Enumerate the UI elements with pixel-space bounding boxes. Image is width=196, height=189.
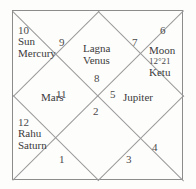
planet-jupiter: Jupiter [123, 91, 153, 103]
house-number-9: 9 [59, 37, 65, 48]
house-number-1: 1 [59, 154, 65, 165]
house-number-7: 7 [132, 37, 138, 48]
house-number-5: 5 [110, 89, 116, 100]
house-number-6: 6 [160, 25, 166, 36]
lagna-ascendant: Lagna [83, 42, 110, 54]
planet-moon: Moon [149, 44, 175, 56]
moon-degree: 12°21 [149, 56, 175, 66]
house-12-planets: Rahu Saturn [18, 127, 47, 152]
house-number-8: 8 [94, 73, 100, 84]
vedic-birth-chart: 10 9 7 6 8 11 5 2 12 1 3 4 Sun Mercury L… [0, 0, 196, 189]
planet-saturn: Saturn [18, 139, 47, 151]
house-11-planets: Mars [41, 91, 64, 103]
house-6-planets: Moon 12°21 Ketu [149, 44, 175, 79]
house-number-4: 4 [152, 142, 158, 153]
planet-rahu: Rahu [18, 127, 47, 139]
house-5-planets: Jupiter [123, 91, 153, 103]
planet-ketu: Ketu [149, 66, 175, 78]
chart-frame: 10 9 7 6 8 11 5 2 12 1 3 4 Sun Mercury L… [12, 10, 183, 180]
planet-mars: Mars [41, 91, 64, 103]
house-number-2: 2 [93, 106, 99, 117]
planet-venus: Venus [83, 54, 110, 66]
house-10-planets: Sun Mercury [18, 35, 56, 60]
planet-mercury: Mercury [18, 47, 56, 59]
house-9-planets: Lagna Venus [83, 42, 110, 67]
planet-sun: Sun [18, 35, 56, 47]
house-number-3: 3 [126, 154, 132, 165]
